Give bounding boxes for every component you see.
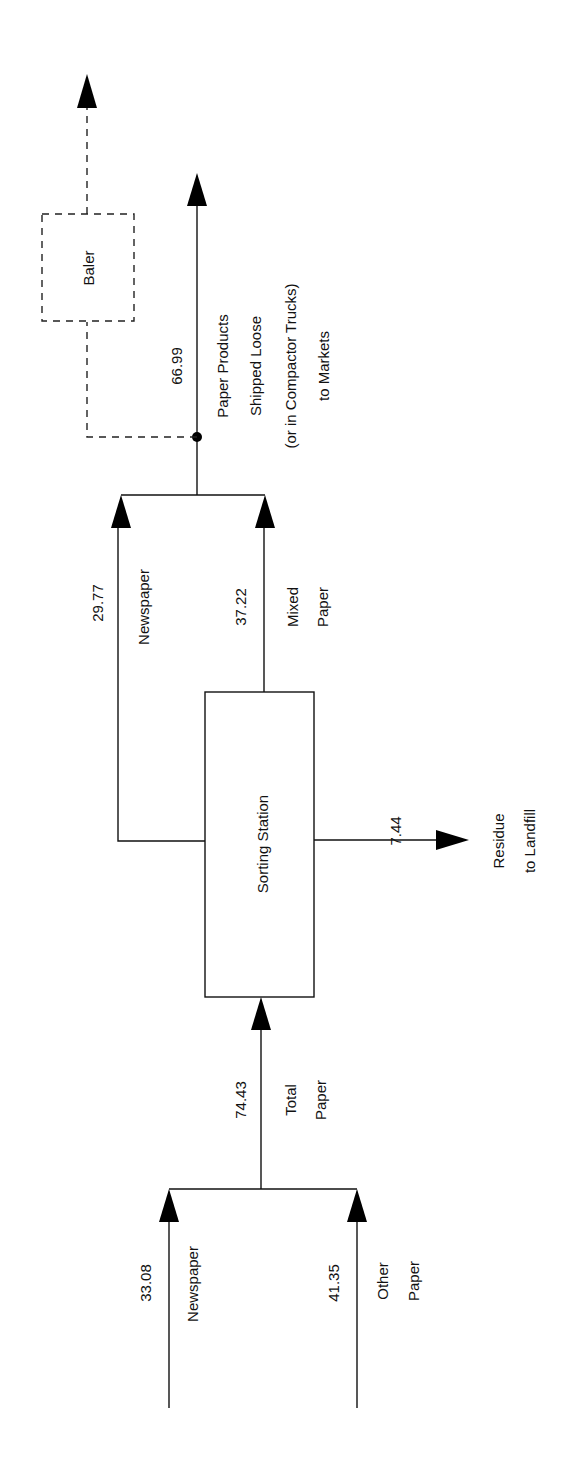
- arrowhead-icon: [77, 74, 97, 108]
- products-label-line2: Shipped Loose: [247, 316, 264, 416]
- arrowhead-icon: [255, 495, 275, 528]
- total-paper-label-line1: Total: [282, 1084, 299, 1116]
- output-mixed-paper-value: 37.22: [232, 588, 249, 626]
- input-other-paper-label-line2: Paper: [405, 1261, 422, 1301]
- sorting-station-label: Sorting Station: [254, 795, 271, 893]
- paper-sorting-flow-diagram: Sorting Station Baler 33.08 Newspaper 41…: [0, 0, 581, 1462]
- arrowhead-icon: [111, 495, 131, 528]
- output-newspaper-value: 29.77: [89, 584, 106, 622]
- products-label-line1: Paper Products: [214, 314, 231, 417]
- residue-label-line2: to Landfill: [521, 809, 538, 873]
- total-paper-value: 74.43: [232, 1081, 249, 1119]
- output-mixed-paper-label-line2: Paper: [314, 587, 331, 627]
- arrowhead-icon: [251, 997, 271, 1030]
- input-other-paper-flow: [347, 1189, 367, 1408]
- arrowhead-icon: [436, 830, 469, 850]
- arrowhead-icon: [187, 173, 207, 206]
- baler-label: Baler: [80, 250, 97, 285]
- residue-value: 7.44: [387, 816, 404, 845]
- arrowhead-icon: [159, 1189, 179, 1222]
- total-paper-label-line2: Paper: [312, 1080, 329, 1120]
- total-paper-flow: [251, 997, 271, 1189]
- output-mixed-paper-label-line1: Mixed: [284, 587, 301, 627]
- input-newspaper-value: 33.08: [137, 1264, 154, 1302]
- products-to-markets-flow: [187, 173, 207, 495]
- input-other-paper-value: 41.35: [325, 1264, 342, 1302]
- products-label-line4: to Markets: [315, 331, 332, 401]
- mixed-paper-output-flow: [255, 495, 275, 692]
- output-newspaper-label: Newspaper: [135, 569, 152, 645]
- input-newspaper-label: Newspaper: [184, 1246, 201, 1322]
- input-other-paper-label-line1: Other: [374, 1262, 391, 1300]
- input-newspaper-flow: [159, 1189, 179, 1408]
- products-label-line3: (or in Compactor Trucks): [282, 283, 299, 448]
- residue-label-line1: Residue: [490, 813, 507, 868]
- newspaper-output-flow: [111, 495, 205, 841]
- products-value: 66.99: [168, 347, 185, 385]
- arrowhead-icon: [347, 1189, 367, 1222]
